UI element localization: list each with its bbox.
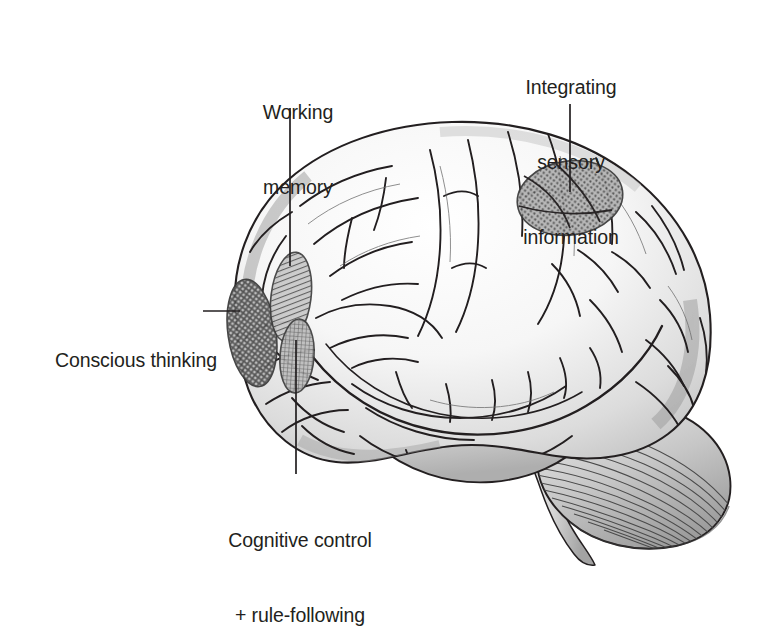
label-working-memory: Working memory	[243, 50, 353, 225]
label-integrating-line3: information	[505, 225, 637, 250]
label-integrating-line2: sensory	[505, 150, 637, 175]
label-working-memory-line2: memory	[243, 175, 353, 200]
label-working-memory-line1: Working	[243, 100, 353, 125]
label-integrating-sensory-information: Integrating sensory information	[505, 25, 637, 275]
label-conscious-thinking: Conscious thinking	[55, 298, 217, 398]
label-conscious-thinking-line1: Conscious thinking	[55, 348, 217, 373]
label-integrating-line1: Integrating	[505, 75, 637, 100]
label-cognitive-line1: Cognitive control	[190, 528, 410, 553]
label-cognitive-line2: + rule-following	[190, 603, 410, 628]
label-cognitive-control: Cognitive control + rule-following	[190, 478, 410, 630]
